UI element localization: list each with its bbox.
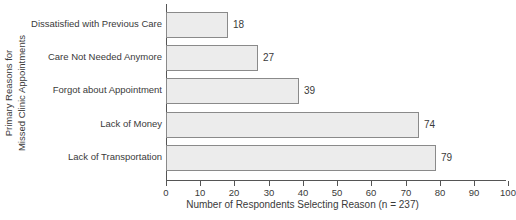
- x-axis-tick-label: 60: [366, 188, 377, 198]
- x-axis-tick: [440, 181, 441, 186]
- category-label: Care Not Needed Anymore: [26, 51, 162, 62]
- x-axis-tick-label: 80: [435, 188, 446, 198]
- category-label: Dissatisfied with Previous Care: [26, 18, 162, 29]
- x-axis-tick-label: 70: [401, 188, 412, 198]
- x-axis-title-text: Number of Respondents Selecting Reason (…: [186, 199, 419, 211]
- x-axis-tick: [474, 181, 475, 186]
- x-axis-tick-label: 90: [469, 188, 480, 198]
- bar: [166, 12, 228, 38]
- y-axis-title-line-1: Primary Reasons for: [3, 34, 16, 150]
- x-axis-tick-label: 30: [264, 188, 275, 198]
- bar: [166, 112, 419, 138]
- category-label: Forgot about Appointment: [26, 84, 162, 95]
- bar: [166, 45, 258, 71]
- x-axis-tick-label: 50: [332, 188, 343, 198]
- category-label: Lack of Transportation: [26, 151, 162, 162]
- x-axis-tick-label: 40: [298, 188, 309, 198]
- x-axis-tick: [303, 181, 304, 186]
- x-axis-title: Number of Respondents Selecting Reason (…: [0, 199, 515, 211]
- bar: [166, 78, 299, 104]
- bar-value-label: 18: [233, 20, 244, 30]
- x-axis-tick: [200, 181, 201, 186]
- category-label: Lack of Money: [26, 118, 162, 129]
- category-label-list: Dissatisfied with Previous Care Care Not…: [26, 0, 162, 185]
- bar-value-label: 74: [424, 120, 435, 130]
- x-axis-tick: [166, 181, 167, 186]
- x-axis-tick-label: 20: [229, 188, 240, 198]
- x-axis-tick: [371, 181, 372, 186]
- x-axis-tick: [406, 181, 407, 186]
- plot-area: 18 27 39 74 79 0 10 20 30 40 50 60 70 80…: [166, 4, 511, 181]
- x-axis-tick: [234, 181, 235, 186]
- x-axis-tick: [337, 181, 338, 186]
- bar: [166, 145, 436, 171]
- x-axis-line: [166, 180, 506, 181]
- bar-value-label: 27: [263, 53, 274, 63]
- x-axis-tick: [269, 181, 270, 186]
- x-axis-tick-label: 100: [500, 188, 516, 198]
- x-axis-tick-label: 0: [163, 188, 168, 198]
- bar-value-label: 79: [441, 153, 452, 163]
- x-axis-tick: [508, 181, 509, 186]
- bar-value-label: 39: [304, 86, 315, 96]
- x-axis-tick-label: 10: [195, 188, 206, 198]
